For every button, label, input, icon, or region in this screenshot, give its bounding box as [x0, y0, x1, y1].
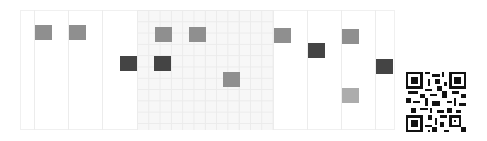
- qr-code-icon: [406, 72, 466, 132]
- column-divider: [239, 10, 240, 130]
- square-marker-light: [342, 88, 359, 103]
- column-divider: [341, 10, 342, 130]
- square-marker-medium: [155, 27, 172, 42]
- square-marker-medium: [69, 25, 86, 40]
- qr-code-graphic: [406, 72, 466, 132]
- column-divider: [102, 10, 103, 130]
- square-marker-dark: [376, 59, 393, 74]
- column-divider: [137, 10, 138, 130]
- square-marker-medium: [223, 72, 240, 87]
- square-marker-medium: [274, 28, 291, 43]
- square-marker-dark: [308, 43, 325, 58]
- square-marker-medium: [342, 29, 359, 44]
- square-marker-dark: [154, 56, 171, 71]
- square-marker-medium: [189, 27, 206, 42]
- column-divider: [307, 10, 308, 130]
- square-marker-medium: [35, 25, 52, 40]
- square-marker-dark: [120, 56, 137, 71]
